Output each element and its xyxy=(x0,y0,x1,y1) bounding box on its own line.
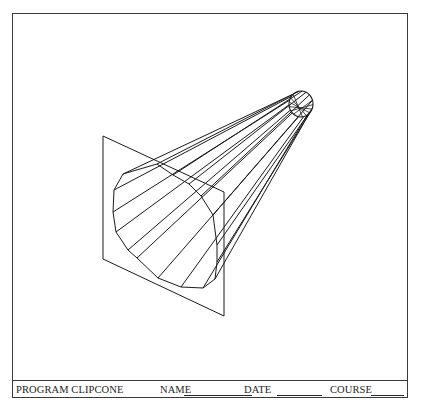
cone-generator-line xyxy=(128,110,290,250)
cone-generator-line xyxy=(217,111,311,262)
course-field[interactable] xyxy=(371,395,404,396)
course-label: COURSE xyxy=(330,384,372,395)
form-footer: PROGRAM CLIPCONE NAME DATE COURSE xyxy=(12,380,408,398)
clip-plane xyxy=(103,136,224,316)
date-field[interactable] xyxy=(277,395,322,396)
date-label: DATE xyxy=(244,384,271,395)
program-label: PROGRAM CLIPCONE xyxy=(16,384,124,395)
name-field[interactable] xyxy=(184,395,252,396)
name-label: NAME xyxy=(160,384,191,395)
clipcone-figure xyxy=(0,0,424,414)
cone-generator-lines xyxy=(113,91,313,288)
